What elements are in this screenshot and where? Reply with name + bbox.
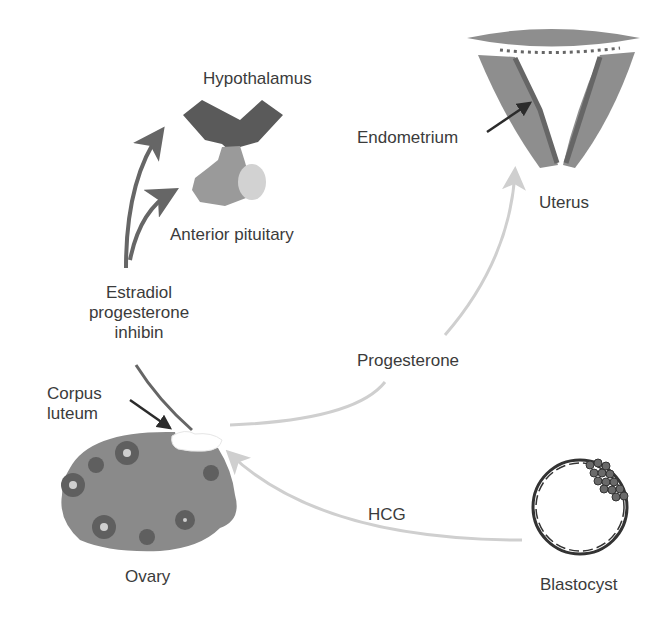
endometrium-label: Endometrium <box>357 128 458 148</box>
uterus-shape <box>467 29 640 168</box>
corpus-luteum-label: Corpus luteum <box>47 384 102 424</box>
progesterone-text: progesterone <box>79 303 199 323</box>
inhibin-text: inhibin <box>79 323 199 343</box>
estradiol-text: Estradiol <box>79 283 199 303</box>
blastocyst-label: Blastocyst <box>540 575 617 595</box>
blastocyst-shape <box>533 459 628 554</box>
uterus-label: Uterus <box>539 193 589 213</box>
feedback-line <box>136 365 192 430</box>
hcg-arrow <box>230 454 522 540</box>
ovary-shape <box>61 431 237 551</box>
ovary-label: Ovary <box>125 567 170 587</box>
progesterone-label: Progesterone <box>357 351 459 371</box>
luteum-text: luteum <box>47 404 102 424</box>
feedback-hormones-label: Estradiol progesterone inhibin <box>79 283 199 343</box>
progesterone-arrow <box>230 172 515 425</box>
feedback-arrow-pituitary <box>130 192 172 260</box>
hypothalamus-label: Hypothalamus <box>203 69 312 89</box>
anterior-pituitary-label: Anterior pituitary <box>170 225 294 245</box>
pituitary-shape <box>192 146 266 206</box>
hcg-label: HCG <box>368 505 406 525</box>
hypothalamus-shape <box>183 100 283 153</box>
corpus-text: Corpus <box>47 384 102 404</box>
